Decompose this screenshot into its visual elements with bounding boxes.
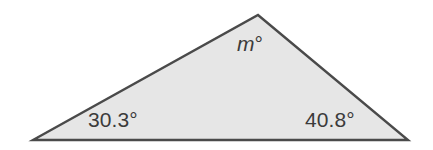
angle-label-bottom-right: 40.8°: [305, 109, 355, 130]
angle-label-apex: m°: [237, 33, 263, 54]
angle-label-bottom-left: 30.3°: [88, 109, 138, 130]
triangle-figure: 30.3° m° 40.8°: [0, 0, 433, 150]
degree-symbol-icon: °: [255, 32, 264, 55]
triangle-shape: [0, 0, 433, 150]
angle-variable-m: m: [237, 32, 255, 55]
